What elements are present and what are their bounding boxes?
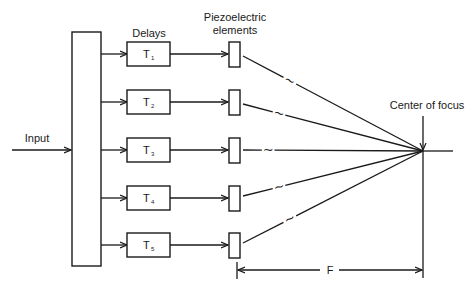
delay-label: T — [143, 144, 150, 156]
piezoelectric-element — [229, 90, 240, 115]
beam-segment-far — [296, 84, 423, 151]
center-of-focus-label: Center of focus — [390, 99, 465, 111]
piezo-heading-line2: elements — [213, 24, 258, 36]
beam-segment-far — [285, 151, 423, 185]
beam-segment-near — [243, 222, 284, 243]
focal-length-label: F — [327, 264, 334, 276]
beam-segment-near — [243, 189, 273, 196]
piezoelectric-element — [229, 138, 240, 163]
delay-label: T — [143, 96, 150, 108]
input-label: Input — [25, 132, 49, 144]
tilde-wave-symbol: ~ — [263, 142, 274, 157]
delay-label: T — [143, 239, 150, 251]
beam-segment-far — [285, 115, 423, 151]
delays-heading: Delays — [132, 27, 166, 39]
delay-label: T — [143, 192, 150, 204]
beam-segment-far — [275, 150, 424, 151]
channel-3: T3~ — [101, 138, 423, 163]
piezoelectric-element — [229, 233, 240, 258]
tilde-wave-symbol: ~ — [281, 209, 298, 227]
splitter-box — [72, 32, 101, 266]
channels: T1~T2~T3~T4~T5~ — [101, 42, 423, 258]
tilde-wave-symbol: ~ — [272, 178, 286, 195]
tilde-wave-symbol: ~ — [282, 71, 299, 89]
piezo-heading-line1: Piezoelectric — [204, 11, 267, 23]
delay-label: T — [143, 48, 150, 60]
beam-segment-near — [243, 104, 273, 112]
piezoelectric-element — [229, 186, 240, 211]
beam-segment-far — [296, 151, 423, 216]
phased-array-diagram: Delays Piezoelectric elements Input T1~T… — [0, 0, 473, 287]
beam-segment-near — [243, 56, 284, 77]
tilde-wave-symbol: ~ — [272, 104, 286, 121]
piezoelectric-element — [229, 42, 240, 67]
